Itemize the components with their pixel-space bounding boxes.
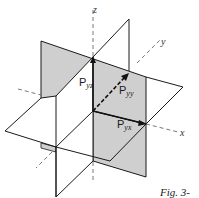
horizontal-plane-back-edge: [146, 77, 183, 124]
x-axis: [146, 124, 178, 132]
y-axis-lower: [36, 152, 52, 168]
x-axis-back: [18, 89, 41, 95]
stress-planes-diagram: z y x Pyz Pyy Pyx Fig. 3-: [0, 0, 199, 198]
y-axis-label: y: [160, 36, 166, 47]
z-axis-label: z: [92, 4, 97, 15]
y-axis: [137, 40, 160, 63]
figure-caption: Fig. 3-: [159, 186, 190, 198]
x-axis-label: x: [179, 127, 185, 138]
